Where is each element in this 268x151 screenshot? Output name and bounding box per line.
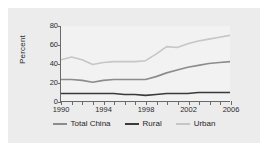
x-axis-tick-mark (178, 101, 179, 105)
x-axis-tick-label: 1994 (95, 106, 112, 114)
x-axis-tick-mark (135, 101, 136, 105)
y-axis-tick-mark (58, 45, 61, 46)
x-axis-tick-mark (72, 101, 73, 105)
y-axis-tick-label: 80 (50, 22, 58, 30)
legend-label: Total China (71, 120, 111, 128)
y-axis-tick-label: 20 (50, 79, 58, 87)
x-axis-tick-label: 2002 (180, 106, 197, 114)
y-axis-tick-mark (58, 83, 61, 84)
x-axis-tick-mark (220, 101, 221, 105)
legend-line-swatch (125, 123, 139, 125)
legend-item-total-china[interactable]: Total China (53, 120, 111, 128)
legend-label: Urban (194, 120, 216, 128)
x-axis-tick-label: 2006 (223, 106, 240, 114)
legend-line-swatch (53, 123, 67, 125)
x-axis-tick-mark (114, 101, 115, 105)
chart-legend: Total ChinaRuralUrban (8, 120, 260, 128)
x-axis-tick-mark (125, 101, 126, 105)
x-axis-tick-mark (167, 101, 168, 105)
y-axis-label: Percent (18, 35, 27, 64)
legend-item-rural[interactable]: Rural (125, 120, 162, 128)
legend-label: Rural (143, 120, 162, 128)
x-axis-tick-mark (93, 101, 94, 105)
legend-line-swatch (176, 123, 190, 125)
chart-figure: Percent 02040608019901994199820022006 To… (8, 8, 260, 143)
x-axis-tick-mark (210, 101, 211, 105)
legend-item-urban[interactable]: Urban (176, 120, 216, 128)
y-axis-tick-mark (58, 26, 61, 27)
series-line-rural (61, 93, 230, 96)
series-line-urban (61, 35, 230, 64)
series-line-total-china (61, 62, 230, 83)
y-axis-tick-label: 60 (50, 41, 58, 49)
x-axis-tick-mark (199, 101, 200, 105)
series-lines (61, 26, 230, 101)
y-axis-tick-label: 40 (50, 60, 58, 68)
x-axis-tick-mark (157, 101, 158, 105)
x-axis-tick-mark (82, 101, 83, 105)
y-axis-tick-mark (58, 64, 61, 65)
x-axis-tick-label: 1990 (53, 106, 70, 114)
x-axis-tick-label: 1998 (138, 106, 155, 114)
plot-area: 02040608019901994199820022006 (60, 26, 230, 102)
